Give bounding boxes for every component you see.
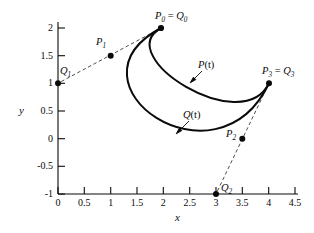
y-tick-label-0: 0 bbox=[48, 134, 53, 144]
y-axis-title: y bbox=[19, 105, 24, 116]
point-label-p3q3-q: Q bbox=[283, 65, 291, 76]
y-tick-label-2: 2 bbox=[48, 23, 53, 33]
point-dot-p0q0 bbox=[158, 25, 164, 31]
curve-annotation-qt: Q(t) bbox=[183, 110, 201, 121]
y-tick-label-1: 1 bbox=[48, 78, 53, 88]
point-label-q1-sub: 1 bbox=[68, 71, 72, 79]
point-dot-q1 bbox=[55, 80, 61, 86]
point-label-p0q0-equals: = bbox=[165, 10, 176, 21]
point-label-q2: Q2 bbox=[221, 183, 232, 196]
curve-annotation-qt-fn: Q bbox=[183, 109, 191, 120]
curve-annotation-pt-arg: (t) bbox=[204, 59, 214, 70]
point-label-q1-main: Q bbox=[60, 65, 68, 76]
point-label-q2-main: Q bbox=[221, 182, 229, 193]
curve-annotation-pt: P(t) bbox=[198, 60, 214, 71]
point-label-q2-sub: 2 bbox=[229, 188, 233, 196]
x-tick-label-3.5: 3.5 bbox=[236, 198, 249, 208]
point-label-p2-sub: 2 bbox=[232, 134, 236, 142]
x-tick-label-2: 2 bbox=[161, 198, 166, 208]
y-tick-label-0.5: 0.5 bbox=[41, 106, 54, 116]
x-axis-title: x bbox=[175, 212, 180, 223]
control-point-dots bbox=[55, 25, 272, 197]
curve-annotation-qt-arg: (t) bbox=[191, 109, 201, 120]
point-dot-p2 bbox=[239, 136, 245, 142]
point-label-p1-sub: 1 bbox=[102, 42, 106, 50]
point-label-p3q3: P3 = Q3 bbox=[262, 66, 294, 79]
x-tick-label-1: 1 bbox=[108, 198, 113, 208]
annotation-arrows bbox=[176, 71, 202, 134]
point-label-p3q3-q-sub: 3 bbox=[291, 71, 295, 79]
x-tick-label-1.5: 1.5 bbox=[131, 198, 144, 208]
point-label-p3q3-equals: = bbox=[272, 65, 283, 76]
y-tick-label-minus1: -1 bbox=[45, 189, 53, 199]
x-axis-ticks bbox=[58, 187, 295, 194]
x-tick-label-4: 4 bbox=[266, 198, 271, 208]
point-dot-p3q3 bbox=[266, 80, 272, 86]
y-axis-ticks bbox=[58, 28, 65, 194]
point-label-p0q0: P0 = Q0 bbox=[155, 11, 187, 24]
point-label-p0q0-q-sub: 0 bbox=[184, 16, 188, 24]
point-label-p2: P2 bbox=[226, 129, 236, 142]
x-tick-label-2.5: 2.5 bbox=[183, 198, 196, 208]
y-tick-label-1.5: 1.5 bbox=[41, 51, 54, 61]
x-tick-label-0: 0 bbox=[56, 198, 61, 208]
point-label-q1: Q1 bbox=[60, 66, 71, 79]
x-tick-label-3: 3 bbox=[214, 198, 219, 208]
point-label-p1: P1 bbox=[96, 37, 106, 50]
x-tick-label-4.5: 4.5 bbox=[289, 198, 302, 208]
bezier-curve-figure: 2 1.5 1 0.5 0 -0.5 -1 0 0.5 1 1.5 2 2.5 … bbox=[0, 0, 314, 233]
point-label-p0q0-q: Q bbox=[176, 10, 184, 21]
point-dot-p1 bbox=[108, 53, 114, 59]
x-tick-label-0.5: 0.5 bbox=[78, 198, 91, 208]
y-tick-label-minus0.5: -0.5 bbox=[37, 161, 53, 171]
